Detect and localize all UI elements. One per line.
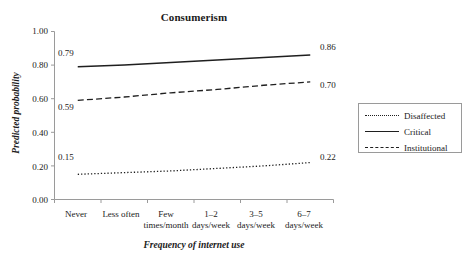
data-label-disaffected-end: 0.22	[320, 152, 336, 162]
solid-line-icon	[365, 127, 399, 137]
data-label-institutional-end: 0.70	[320, 80, 336, 90]
legend-label: Disaffected	[404, 111, 445, 121]
dashed-line-icon	[365, 143, 399, 153]
legend: Disaffected Critical Institutional	[358, 103, 462, 153]
data-label-institutional-start: 0.59	[58, 102, 74, 112]
legend-item-disaffected[interactable]: Disaffected	[365, 109, 445, 123]
data-label-disaffected-start: 0.15	[58, 152, 74, 162]
legend-item-critical[interactable]: Critical	[365, 125, 431, 139]
chart-figure: Consumerism Predicted probability Freque…	[0, 0, 467, 258]
dotted-line-icon	[365, 111, 399, 121]
legend-label: Critical	[404, 127, 431, 137]
data-label-critical-start: 0.79	[58, 48, 74, 58]
legend-label: Institutional	[404, 143, 448, 153]
data-label-critical-end: 0.86	[320, 42, 336, 52]
legend-item-institutional[interactable]: Institutional	[365, 141, 448, 155]
